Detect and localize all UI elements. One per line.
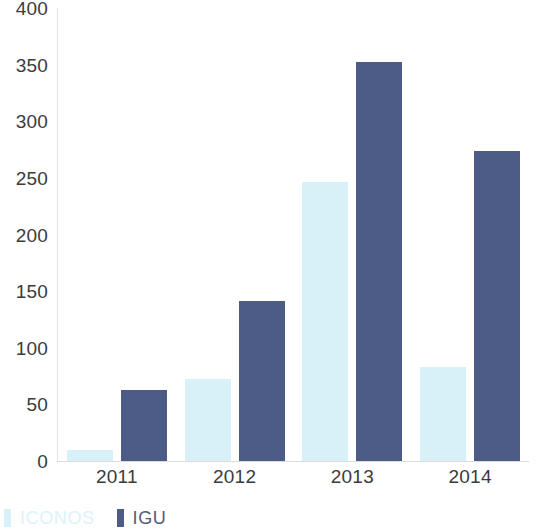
bar-group [176, 8, 294, 461]
x-tick-label: 2013 [294, 466, 412, 489]
x-axis: 2011201220132014 [58, 466, 529, 496]
legend-label: ICONOS [20, 509, 95, 527]
bar-iconos-2012 [185, 379, 231, 461]
y-tick-label: 150 [0, 282, 48, 301]
legend-label: IGU [133, 509, 167, 527]
y-tick-label: 100 [0, 339, 48, 358]
y-tick-label: 250 [0, 169, 48, 188]
bar-igu-2011 [121, 390, 167, 461]
bar-group [294, 8, 412, 461]
bar-igu-2013 [356, 62, 402, 461]
legend-item-iconos[interactable]: ICONOS [4, 509, 95, 527]
bar-iconos-2011 [67, 450, 113, 461]
bar-group [411, 8, 529, 461]
y-tick-label: 0 [0, 452, 48, 471]
bar-igu-2012 [239, 301, 285, 461]
y-tick-label: 350 [0, 56, 48, 75]
x-tick-label: 2014 [411, 466, 529, 489]
x-axis-line [57, 461, 529, 462]
y-axis: 050100150200250300350400 [0, 0, 48, 480]
plot-area [58, 8, 529, 461]
y-tick-label: 50 [0, 395, 48, 414]
x-tick-label: 2011 [58, 466, 176, 489]
chart-legend: ICONOSIGU [4, 505, 188, 531]
bar-chart: 050100150200250300350400 201120122013201… [0, 0, 540, 531]
y-tick-label: 400 [0, 0, 48, 18]
legend-swatch-icon [4, 509, 11, 527]
bar-igu-2014 [474, 151, 520, 461]
bar-iconos-2014 [420, 367, 466, 461]
legend-item-igu[interactable]: IGU [117, 509, 167, 527]
x-tick-label: 2012 [176, 466, 294, 489]
bar-iconos-2013 [302, 182, 348, 461]
y-tick-label: 200 [0, 226, 48, 245]
bar-group [58, 8, 176, 461]
legend-swatch-icon [117, 509, 124, 527]
y-tick-label: 300 [0, 112, 48, 131]
